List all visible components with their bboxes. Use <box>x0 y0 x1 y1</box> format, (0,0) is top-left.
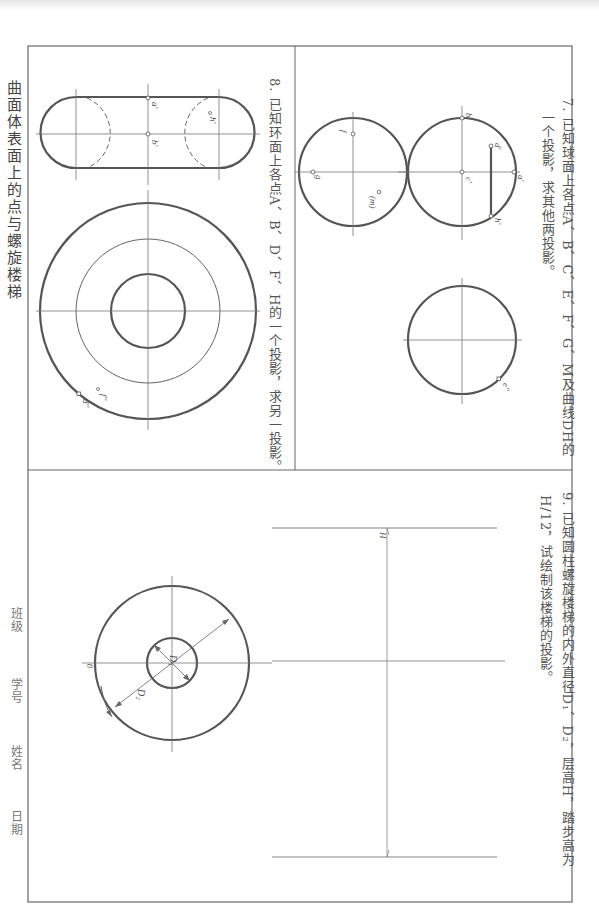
svg-text:D₂: D₂ <box>136 688 147 700</box>
exercise8-text: 8. 已知环面上各点A、B、D、F、H的一个投影，求另一投影。 <box>265 78 283 474</box>
field-class: 班级 <box>6 607 24 633</box>
svg-text:g: g <box>314 175 324 180</box>
svg-text:(m): (m) <box>368 196 378 209</box>
svg-text:D₁: D₁ <box>168 654 179 666</box>
svg-text:f'': f'' <box>99 394 109 401</box>
exercise7-number: 7. <box>560 98 575 112</box>
svg-text:a': a' <box>516 175 526 183</box>
exercise9-number: 9. <box>560 492 575 506</box>
field-date: 日期 <box>6 810 24 836</box>
svg-text:a': a' <box>150 102 160 110</box>
exercise9-text-line1: 9. 已知圆柱螺旋楼梯的内外直径D₁、D₂，层高H，踏步高为 <box>558 492 576 867</box>
svg-text:e'': e'' <box>501 383 511 392</box>
exercise8-number: 8. <box>267 78 282 92</box>
svg-text:0: 0 <box>85 664 94 668</box>
svg-text:h': h' <box>493 218 503 226</box>
exercise8-drawing: a' b' h' f'' d'' <box>36 84 260 430</box>
drawing-sheet: b' c' a' d' h' f g (m) e'' a' <box>0 0 599 916</box>
svg-text:c': c' <box>464 177 474 184</box>
svg-text:d'': d'' <box>81 399 91 408</box>
field-student-id: 学号 <box>6 678 24 704</box>
svg-text:h': h' <box>208 117 218 125</box>
exercise7-text-line2: 一个投影，求其他两投影。 <box>538 111 556 279</box>
exercise7-text-line1: 7. 已知球面上各点A、B、C、E、F、G、M及曲线DH的 <box>558 98 576 457</box>
svg-text:b': b' <box>464 113 474 121</box>
page-title: 曲面体表面上的点与螺旋楼梯 <box>4 80 22 301</box>
svg-text:f: f <box>339 130 349 134</box>
svg-text:b': b' <box>150 140 160 148</box>
field-name: 姓名 <box>6 745 24 771</box>
exercise9-text-line2: H/12，试绘制该楼梯的投影。 <box>536 495 554 685</box>
exercise7-drawing: b' c' a' d' h' f g (m) e'' <box>295 106 526 404</box>
svg-text:d': d' <box>493 143 503 151</box>
exercise9-drawing: H D₁ D₂ 0 <box>82 528 505 857</box>
svg-text:H: H <box>378 531 388 539</box>
